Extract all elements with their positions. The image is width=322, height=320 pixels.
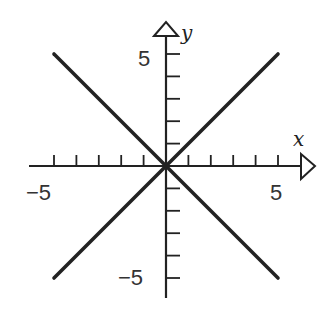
x-axis-arrow-icon: [301, 154, 315, 179]
y-tick-label-max: 5: [138, 46, 150, 71]
y-axis-arrow-icon: [154, 22, 178, 36]
x-tick-label-min: −5: [26, 180, 51, 205]
y-axis-label: y: [180, 21, 193, 45]
x-axis-label: x: [293, 127, 304, 151]
coordinate-plane: x y −5 5 5 −5: [0, 0, 322, 320]
x-tick-label-max: 5: [270, 180, 282, 205]
y-tick-label-min: −5: [118, 265, 143, 290]
